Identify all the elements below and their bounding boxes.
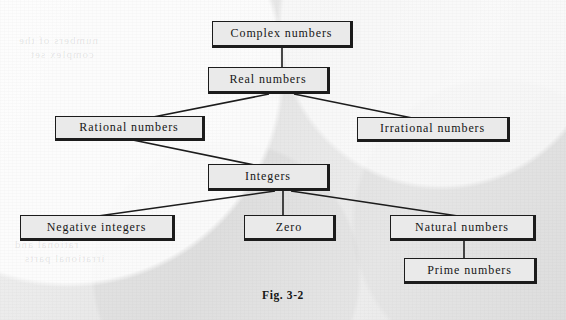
figure-caption: Fig. 3-2	[0, 289, 566, 301]
node-negative-integers[interactable]: Negative integers	[20, 215, 175, 241]
node-prime-numbers[interactable]: Prime numbers	[404, 258, 537, 284]
node-label: Natural numbers	[415, 220, 509, 235]
node-label: Rational numbers	[79, 120, 178, 135]
node-label: Real numbers	[229, 72, 306, 87]
node-real-numbers[interactable]: Real numbers	[208, 67, 330, 94]
figure-page: numbers of the complex set rational and …	[0, 0, 566, 320]
node-label: Irrational numbers	[380, 121, 485, 136]
node-label: Negative integers	[47, 220, 147, 235]
node-label: Zero	[276, 220, 302, 235]
edge-integers-natural	[291, 191, 458, 216]
node-complex-numbers[interactable]: Complex numbers	[212, 21, 353, 48]
node-label: Integers	[245, 169, 291, 184]
node-label: Complex numbers	[231, 26, 333, 41]
node-natural-numbers[interactable]: Natural numbers	[390, 215, 536, 241]
node-zero[interactable]: Zero	[244, 215, 336, 241]
edge-integers-negative	[98, 191, 275, 216]
node-irrational-numbers[interactable]: Irrational numbers	[357, 117, 510, 142]
node-rational-numbers[interactable]: Rational numbers	[55, 116, 205, 141]
node-label: Prime numbers	[427, 263, 512, 278]
node-integers[interactable]: Integers	[208, 164, 330, 191]
